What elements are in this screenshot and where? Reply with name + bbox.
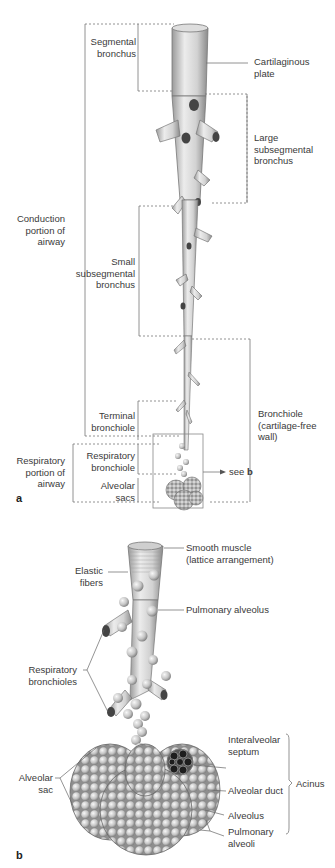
label-respiratory-portion: Respiratory portion of airway [16,455,65,490]
label-terminal-bronchiole: Terminal bronchiole [91,410,135,433]
label-bronchiole: Bronchiole (cartilage-free wall) [258,408,317,443]
label-acinus: Acinus [296,778,325,790]
label-alveolar-sacs: Alveolar sacs [101,480,135,503]
label-segmental-bronchus: Segmental bronchus [91,36,136,59]
label-conduction-portion: Conduction portion of airway [17,213,65,248]
label-pulmonary-alveolus: Pulmonary alveolus [186,604,269,616]
see-panel-b-reference: see b [229,466,253,478]
label-pulmonary-alveoli: Pulmonary alveoli [228,826,273,849]
label-elastic-fibers: Elastic fibers [75,565,103,588]
label-alveolus: Alveolus [228,810,264,822]
label-respiratory-bronchioles: Respiratory bronchioles [28,664,77,687]
label-cartilaginous-plate: Cartilaginous plate [254,56,309,79]
see-ref: b [247,466,253,477]
label-small-subsegmental-bronchus: Small subsegmental bronchus [76,256,135,291]
see-prefix: see [229,466,247,477]
label-interalveolar-septum: Interalveolar septum [228,734,280,757]
label-respiratory-bronchiole: Respiratory bronchiole [86,450,135,473]
label-smooth-muscle: Smooth muscle (lattice arrangement) [186,542,274,565]
acinus-illustration [70,542,220,855]
label-alveolar-sac: Alveolar sac [19,772,53,795]
arrow-icon [220,470,226,475]
label-alveolar-duct: Alveolar duct [228,785,283,797]
panel-letter-a: a [16,492,22,504]
panel-letter-b: b [16,849,23,861]
bronchial-tree [156,24,220,510]
label-large-subsegmental-bronchus: Large subsegmental bronchus [254,132,313,167]
